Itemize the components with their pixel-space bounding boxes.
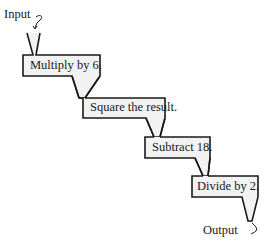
step-2-label: Square the result. [90,101,177,114]
step-4-label: Divide by 2. [197,180,259,193]
input-label: Input [4,8,30,21]
step-1-label: Multiply by 6. [30,59,102,72]
input-arrow-icon [35,16,42,28]
output-arrow-icon [251,223,257,234]
output-label: Output [203,224,238,237]
step-3-label: Subtract 18. [152,141,212,154]
flow-diagram-shapes [0,0,270,249]
